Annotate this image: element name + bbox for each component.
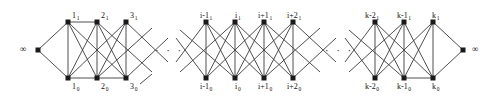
node-label-base: i-1 [200,11,209,20]
node-top [95,20,100,25]
edge-cut-right [97,22,152,72]
edge-cut-left [176,22,206,62]
node-label-base: i+2 [287,82,298,91]
node-label-bottom: i+20 [287,83,301,91]
node-label-bottom: 20 [101,83,108,91]
node-label-subscript: 0 [134,86,137,92]
node-bottom [402,76,407,81]
edge-cut-right [293,22,336,62]
node-label-base: k-1 [397,82,408,91]
node-label-top: 31 [130,12,137,20]
node-label-subscript: 0 [436,86,439,92]
node-label-top: i1 [235,12,241,20]
node-label-bottom: k0 [432,83,439,91]
edge-terminal-left-top [38,22,68,50]
ellipsis-left: · · · [155,45,184,56]
node-label-top: k1 [432,12,439,20]
node-bottom [373,76,378,81]
node-bottom [66,76,71,81]
node-top [431,20,436,25]
node-label-bottom: 30 [130,83,137,91]
node-label-subscript: 1 [376,15,379,21]
node-label-subscript: 1 [436,15,439,21]
node-label-base: i-1 [200,82,209,91]
node-bottom [95,76,100,81]
node-label-base: k-2 [365,11,376,20]
node-label-bottom: k-20 [365,83,379,91]
edge-terminal-right-top [433,22,463,50]
edge-cut-right [97,28,152,78]
node-bottom [431,76,436,81]
edge-cut-right [264,28,320,78]
node-label-base: i+1 [258,82,269,91]
node-label-base: i+2 [287,11,298,20]
node-label-bottom: 10 [72,83,79,91]
graph-chain-diagram: ∞ ∞ · · · · · · 112131i-11i1i+11i+21k-21… [0,0,495,101]
node-label-subscript: 1 [269,15,272,21]
node-label-bottom: i-10 [200,83,212,91]
node-top [402,20,407,25]
infinity-label-left: ∞ [20,44,26,54]
edge-terminal-right-bottom [433,50,463,78]
node-label-top: i+21 [287,12,301,20]
edge-group [38,22,463,84]
edge-cut-right [126,22,168,62]
node-label-subscript: 0 [209,86,212,92]
node-label-bottom: k-10 [397,83,411,91]
node-label-subscript: 1 [237,15,240,21]
node-terminal-right [461,48,466,53]
node-bottom [291,76,296,81]
node-label-base: k-2 [365,82,376,91]
node-terminal-left [36,48,41,53]
edge-terminal-left-bottom [38,50,68,78]
node-label-subscript: 0 [298,86,301,92]
node-bottom [262,76,267,81]
node-label-subscript: 1 [408,15,411,21]
node-label-subscript: 0 [105,86,108,92]
node-label-bottom: i0 [235,83,241,91]
node-bottom [124,76,129,81]
node-label-top: 21 [101,12,108,20]
node-label-subscript: 1 [298,15,301,21]
node-label-base: k-1 [397,11,408,20]
node-top [66,20,71,25]
node-top [204,20,209,25]
edge-cut-stub [140,74,152,84]
ellipsis-right: · · · [325,45,354,56]
node-label-top: i+11 [258,12,272,20]
node-label-bottom: i+10 [258,83,272,91]
node-label-subscript: 0 [376,86,379,92]
node-bottom [233,76,238,81]
edge-cut-right [264,22,320,72]
node-top [291,20,296,25]
node-label-subscript: 1 [134,15,137,21]
node-label-subscript: 0 [76,86,79,92]
infinity-label-right: ∞ [472,44,478,54]
node-top [124,20,129,25]
node-label-top: k-11 [397,12,411,20]
node-top [262,20,267,25]
edge-cut-left [349,22,404,72]
node-label-subscript: 0 [408,86,411,92]
node-label-top: i-11 [200,12,212,20]
node-label-subscript: 0 [237,86,240,92]
edge-cut-left [180,22,235,72]
node-label-top: 11 [72,12,79,20]
node-label-subscript: 1 [209,15,212,21]
node-label-base: i+1 [258,11,269,20]
node-label-subscript: 1 [105,15,108,21]
node-bottom [204,76,209,81]
edge-cut-left [345,22,375,62]
node-label-subscript: 0 [269,86,272,92]
node-label-subscript: 1 [76,15,79,21]
node-label-top: k-21 [365,12,379,20]
